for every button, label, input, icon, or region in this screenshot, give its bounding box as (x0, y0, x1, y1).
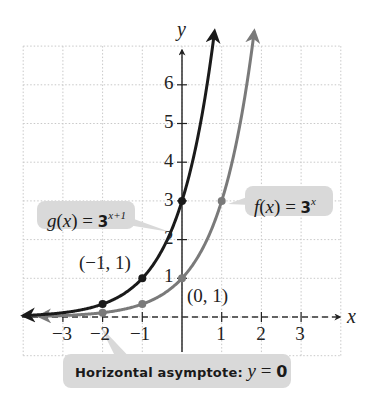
x-tick-label: 3 (295, 323, 305, 345)
data-point (178, 274, 186, 282)
x-tick-label: −1 (130, 323, 150, 345)
y-tick-label: 5 (164, 111, 174, 133)
data-point (99, 300, 107, 308)
data-point (178, 197, 186, 205)
x-tick-label: 2 (256, 323, 266, 345)
data-point (99, 309, 107, 317)
point-label-f: (0, 1) (187, 285, 228, 307)
x-tick-label: −3 (52, 323, 72, 345)
point-label-g: (−1, 1) (79, 252, 131, 274)
g-function-callout: g(x) = 3x+1 (37, 201, 135, 229)
data-point (138, 300, 146, 308)
data-point (218, 197, 226, 205)
y-tick-label: 2 (164, 227, 174, 249)
y-tick-label: 6 (164, 72, 174, 94)
f-function-callout: f(x) = 3x (245, 186, 333, 216)
x-axis-label: x (347, 305, 356, 328)
curves (23, 31, 254, 317)
x-tick-label: 1 (216, 323, 226, 345)
y-tick-label: 1 (164, 265, 174, 287)
y-tick-label: 4 (164, 150, 174, 172)
y-tick-label: 3 (164, 189, 174, 211)
asymptote-callout: Horizontal asymptote: y = 0 (63, 354, 291, 388)
y-axis-label: y (177, 18, 186, 41)
data-point (138, 274, 146, 282)
x-tick-label: −2 (90, 323, 110, 345)
